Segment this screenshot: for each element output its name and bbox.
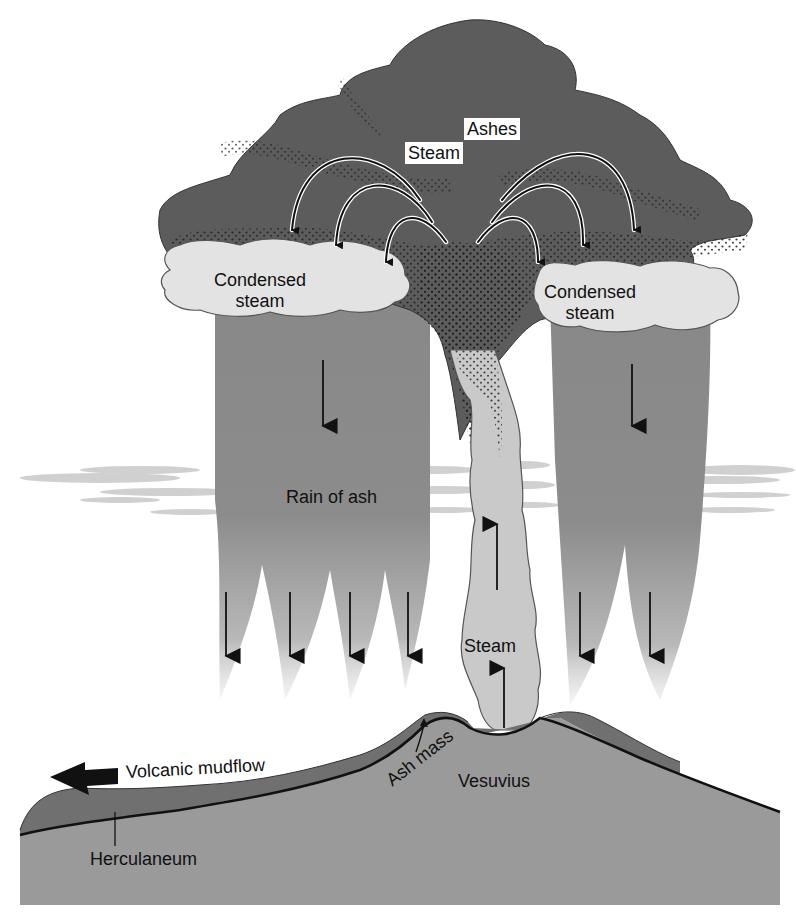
label-condensed-steam-left: Condensed steam: [205, 270, 315, 312]
label-ashes: Ashes: [464, 118, 520, 140]
label-rain-of-ash: Rain of ash: [286, 488, 377, 506]
label-condensed-right-line2: steam: [535, 303, 645, 324]
label-condensed-right-line1: Condensed: [535, 282, 645, 303]
label-condensed-left-line2: steam: [205, 291, 315, 312]
label-vesuvius: Vesuvius: [458, 772, 530, 790]
rain-of-ash-right: [550, 300, 710, 705]
ground-vesuvius: [20, 712, 780, 905]
label-condensed-left-line1: Condensed: [205, 270, 315, 291]
label-condensed-steam-right: Condensed steam: [535, 282, 645, 324]
label-herculaneum: Herculaneum: [90, 850, 197, 868]
label-steam-column: Steam: [464, 637, 516, 655]
label-steam-top: Steam: [405, 142, 463, 164]
vesuvius-eruption-diagram: Ashes Steam Condensed steam Condensed st…: [0, 0, 796, 919]
